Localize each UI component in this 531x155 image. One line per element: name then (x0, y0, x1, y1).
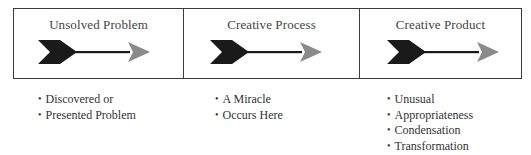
bullet-list-unsolved-problem: Discovered or Presented Problem (38, 92, 136, 123)
bullet-item: A Miracle (215, 92, 283, 108)
stage-unsolved-problem: Unsolved Problem (14, 9, 183, 78)
bullet-list-creative-process: A Miracle Occurs Here (215, 92, 283, 123)
arrow-right-icon (210, 40, 322, 64)
stage-title: Creative Product (360, 17, 521, 33)
arrow-right-icon (387, 40, 499, 64)
process-diagram-frame: Unsolved Problem Creative Process Creati… (13, 8, 522, 79)
bullet-list-creative-product: Unusual Appropriateness Condensation Tra… (387, 92, 473, 154)
bullet-item: Discovered or (38, 92, 136, 108)
bullet-item: Unusual (387, 92, 473, 108)
stage-creative-product: Creative Product (359, 9, 521, 78)
stage-creative-process: Creative Process (183, 9, 359, 78)
bullet-item: Presented Problem (38, 108, 136, 124)
bullet-item: Occurs Here (215, 108, 283, 124)
stage-title: Unsolved Problem (14, 17, 183, 33)
bullet-item: Appropriateness (387, 108, 473, 124)
arrow-right-icon (38, 40, 150, 64)
bullet-item: Transformation (387, 139, 473, 155)
bullet-item: Condensation (387, 123, 473, 139)
stage-title: Creative Process (184, 17, 359, 33)
